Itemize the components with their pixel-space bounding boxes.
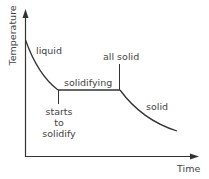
label-starts-to-solidify: starts to solidify	[40, 106, 78, 139]
y-axis-label: Temperature	[7, 6, 18, 66]
label-all-solid: all solid	[103, 51, 139, 62]
cooling-curve-diagram	[0, 0, 209, 179]
label-starts: starts	[40, 106, 78, 117]
label-solid: solid	[146, 101, 168, 112]
label-solidifying: solidifying	[64, 77, 112, 88]
label-liquid: liquid	[36, 45, 62, 56]
x-axis-arrow-icon	[190, 154, 199, 160]
label-solidify: solidify	[40, 128, 78, 139]
y-axis-arrow-icon	[23, 9, 29, 18]
label-to: to	[40, 117, 78, 128]
x-axis-label: Time	[177, 163, 200, 174]
